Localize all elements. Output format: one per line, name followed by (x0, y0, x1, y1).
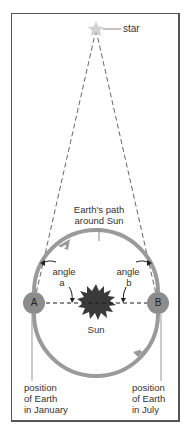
sight-lines (36, 30, 156, 294)
sun-label: Sun (80, 324, 112, 335)
july-label-line1: position (132, 382, 165, 393)
sun-icon (77, 284, 116, 320)
star-icon (89, 22, 104, 36)
earth-path-label-line1: Earth's path (66, 204, 132, 215)
angle-b-label: angle b (114, 266, 142, 288)
angle-a-pointer-head-icon (70, 298, 75, 303)
earth-a-letter: A (28, 297, 40, 308)
angle-a-label-line1: angle (50, 266, 78, 277)
earth-path-label: Earth's path around Sun (66, 204, 132, 226)
angle-b-pointer-head-icon (121, 298, 126, 303)
january-position-label: position of Earth in January (24, 382, 68, 415)
january-label-line2: of Earth (24, 393, 68, 404)
angle-b-label-line1: angle (114, 266, 142, 277)
star-label: star (123, 23, 140, 34)
january-label-line3: in January (24, 404, 68, 415)
july-position-label: position of Earth in July (132, 382, 165, 415)
angle-b-label-line2: b (116, 277, 142, 288)
earth-path-label-line2: around Sun (66, 215, 132, 226)
july-label-line2: of Earth (132, 393, 165, 404)
angle-a-label-line2: a (46, 277, 78, 288)
january-label-line1: position (24, 382, 68, 393)
angle-a-label: angle a (50, 266, 78, 288)
july-label-line3: in July (132, 404, 165, 415)
earth-b-letter: B (152, 297, 164, 308)
